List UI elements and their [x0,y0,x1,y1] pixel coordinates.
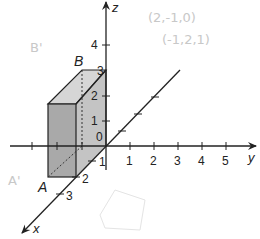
note-point-2: (-1,2,1) [162,32,210,47]
y-tick-1: 1 [126,154,133,168]
note-a-prime: A' [8,173,20,188]
y-axis-label: y [247,150,256,165]
handwritten-notes: (2,-1,0) (-1,2,1) B' A' [8,10,210,230]
z-axis-label: z [111,0,119,15]
pencil-scribble [100,190,145,230]
origin-label: 0 [96,130,103,144]
y-tick-3: 3 [174,154,181,168]
point-a-label: A [37,179,47,195]
z-tick-3: 3 [97,64,104,78]
x-tick-2: 2 [82,172,89,186]
y-axis: 1 2 3 4 5 y [10,142,256,168]
z-tick-2: 2 [91,89,98,103]
x-tick-1: 1 [99,155,106,169]
x-tick-3: 3 [66,189,73,203]
x-axis-label: x [32,221,40,236]
point-b-label: B [74,53,83,69]
y-tick-2: 2 [150,154,157,168]
y-tick-4: 4 [198,154,205,168]
z-tick-1: 1 [91,114,98,128]
z-tick-4: 4 [91,38,98,52]
coordinate-diagram: (2,-1,0) (-1,2,1) B' A' 1 2 3 4 5 [0,0,260,239]
note-b-prime: B' [30,40,43,55]
note-point-1: (2,-1,0) [148,10,196,25]
box-front-face [48,104,76,177]
y-tick-5: 5 [222,154,229,168]
